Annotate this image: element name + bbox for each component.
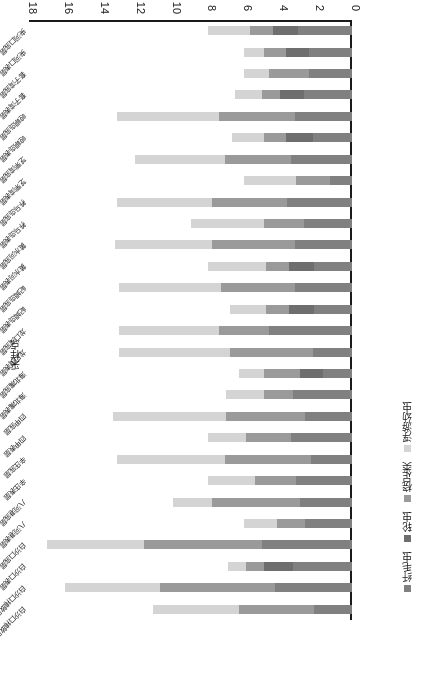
bar-segment (289, 262, 314, 271)
bar-segment (296, 176, 330, 185)
legend-label: 纤毛虫 (401, 552, 416, 582)
chart-canvas: 024681012141618 物种数 白沙口排放口表层白沙口排放口底层白沙口表… (0, 0, 442, 688)
chart-figure: 024681012141618 物种数 白沙口排放口表层白沙口排放口底层白沙口表… (0, 0, 442, 688)
bar-row (117, 112, 352, 121)
bar-segment (309, 69, 352, 78)
bar-segment (313, 133, 352, 142)
bar-row (208, 26, 352, 35)
bar-segment (289, 305, 314, 314)
value-axis-tick: 10 (171, 0, 183, 23)
value-axis-tick: 14 (99, 0, 111, 23)
bar-segment (226, 391, 264, 400)
bar-segment (314, 305, 352, 314)
bar-segment (246, 433, 291, 442)
bar-segment (244, 69, 269, 78)
bar-segment (300, 369, 323, 378)
bar-segment (173, 498, 212, 507)
bar-segment (311, 455, 352, 464)
bar-segment (212, 498, 300, 507)
legend-swatch-icon (405, 535, 412, 542)
bar-segment (244, 519, 276, 528)
bar-segment (264, 133, 286, 142)
bar-row (208, 262, 352, 271)
bar-segment (277, 519, 306, 528)
value-axis-ticks: 024681012141618 (29, 0, 352, 18)
legend-item[interactable]: 桡足类 (388, 462, 428, 502)
bar-segment (295, 283, 352, 292)
bar-segment (244, 48, 264, 57)
bar-row (228, 562, 352, 571)
bar-row (208, 476, 352, 485)
legend-item[interactable]: 浮游幼虫 (388, 402, 428, 452)
bar-segment (208, 433, 246, 442)
bar-row (115, 241, 352, 250)
legend-item[interactable]: 纤毛虫 (388, 552, 428, 592)
bar-segment (191, 219, 265, 228)
bar-segment (230, 305, 266, 314)
bar-row (244, 69, 352, 78)
bar-segment (298, 26, 352, 35)
bar-segment (305, 519, 352, 528)
bar-row (117, 198, 352, 207)
bar-segment (160, 583, 275, 592)
bar-segment (119, 283, 221, 292)
bar-segment (115, 241, 212, 250)
bar-row (173, 498, 352, 507)
category-axis-title: 采样点 (9, 340, 24, 370)
bar-row (135, 155, 352, 164)
legend-label: 桡足类 (401, 462, 416, 492)
bar-segment (239, 605, 314, 614)
bar-segment (65, 583, 160, 592)
bar-segment (144, 541, 262, 550)
bar-segment (250, 26, 273, 35)
bar-segment (264, 219, 303, 228)
bar-row (244, 519, 352, 528)
legend-swatch-icon (405, 585, 412, 592)
bar-segment (225, 455, 311, 464)
bar-segment (113, 412, 226, 421)
bars-layer (29, 20, 352, 620)
value-axis-tick: 2 (314, 0, 326, 23)
legend-label: 浮游幼虫 (401, 402, 416, 442)
bar-segment (219, 326, 269, 335)
value-axis-tick: 8 (206, 0, 218, 23)
bar-segment (117, 198, 212, 207)
bar-segment (235, 91, 262, 100)
bar-segment (135, 155, 225, 164)
bar-row (230, 305, 352, 314)
bar-segment (314, 262, 352, 271)
category-axis-label: 四甲表层 (2, 433, 28, 459)
bar-segment (208, 262, 265, 271)
bar-segment (47, 541, 144, 550)
bar-segment (246, 562, 264, 571)
bar-row (235, 91, 352, 100)
bar-row (117, 455, 352, 464)
bar-segment (330, 176, 352, 185)
value-axis-tick: 16 (63, 0, 75, 23)
bar-segment (212, 241, 295, 250)
bar-row (232, 133, 352, 142)
bar-segment (291, 155, 352, 164)
bar-segment (300, 498, 352, 507)
bar-segment (255, 476, 296, 485)
bar-row (113, 412, 352, 421)
bar-row (191, 219, 352, 228)
bar-segment (119, 348, 230, 357)
value-axis-tick: 4 (278, 0, 290, 23)
bar-segment (264, 369, 300, 378)
legend-item[interactable]: 轮虫 (388, 512, 428, 542)
value-axis-tick: 12 (135, 0, 147, 23)
bar-row (239, 369, 352, 378)
legend-swatch-icon (405, 445, 412, 452)
bar-row (119, 348, 352, 357)
bar-segment (293, 562, 352, 571)
bar-segment (239, 369, 264, 378)
bar-segment (119, 326, 219, 335)
bar-segment (244, 176, 296, 185)
bar-segment (225, 155, 291, 164)
legend-label: 轮虫 (401, 512, 416, 532)
category-axis-labels: 白沙口排放口表层白沙口排放口底层白沙口表层白沙口底层八河港表层八河港底层辛庄表层… (0, 20, 29, 620)
bar-segment (314, 605, 352, 614)
bar-segment (266, 305, 289, 314)
bar-row (244, 176, 352, 185)
